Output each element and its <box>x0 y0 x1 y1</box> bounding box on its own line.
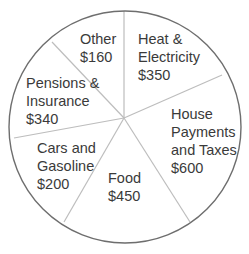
slice-name-line: Cars and <box>37 140 96 156</box>
slice-label-heat-and-electricity: Heat &Electricity$350 <box>138 31 201 83</box>
slice-value: $350 <box>138 67 170 83</box>
slice-name-line: House <box>171 106 213 122</box>
slice-name-line: Electricity <box>138 49 201 65</box>
slice-value: $160 <box>80 49 112 65</box>
slice-value: $340 <box>26 111 58 127</box>
slice-label-food: Food$450 <box>108 170 141 204</box>
slice-name-line: Heat & <box>138 31 183 47</box>
pie-chart: Heat &Electricity$350HousePaymentsand Ta… <box>0 0 249 254</box>
slice-value: $450 <box>108 188 140 204</box>
slice-name-line: Insurance <box>26 93 90 109</box>
slice-name-line: and Taxes <box>171 142 237 158</box>
slice-name-line: Food <box>108 170 141 186</box>
slice-labels: Heat &Electricity$350HousePaymentsand Ta… <box>26 31 237 204</box>
slice-value: $200 <box>37 176 69 192</box>
slice-name-line: Other <box>80 31 116 47</box>
slice-label-house-payments-and-taxes: HousePaymentsand Taxes$600 <box>171 106 237 176</box>
slice-label-other: Other$160 <box>80 31 116 65</box>
slice-name-line: Payments <box>171 124 235 140</box>
slice-name-line: Gasoline <box>37 158 94 174</box>
slice-label-cars-and-gasoline: Cars andGasoline$200 <box>37 140 96 192</box>
slice-label-pensions-and-insurance: Pensions &Insurance$340 <box>26 75 100 127</box>
slice-value: $600 <box>171 160 203 176</box>
slice-name-line: Pensions & <box>26 75 100 91</box>
